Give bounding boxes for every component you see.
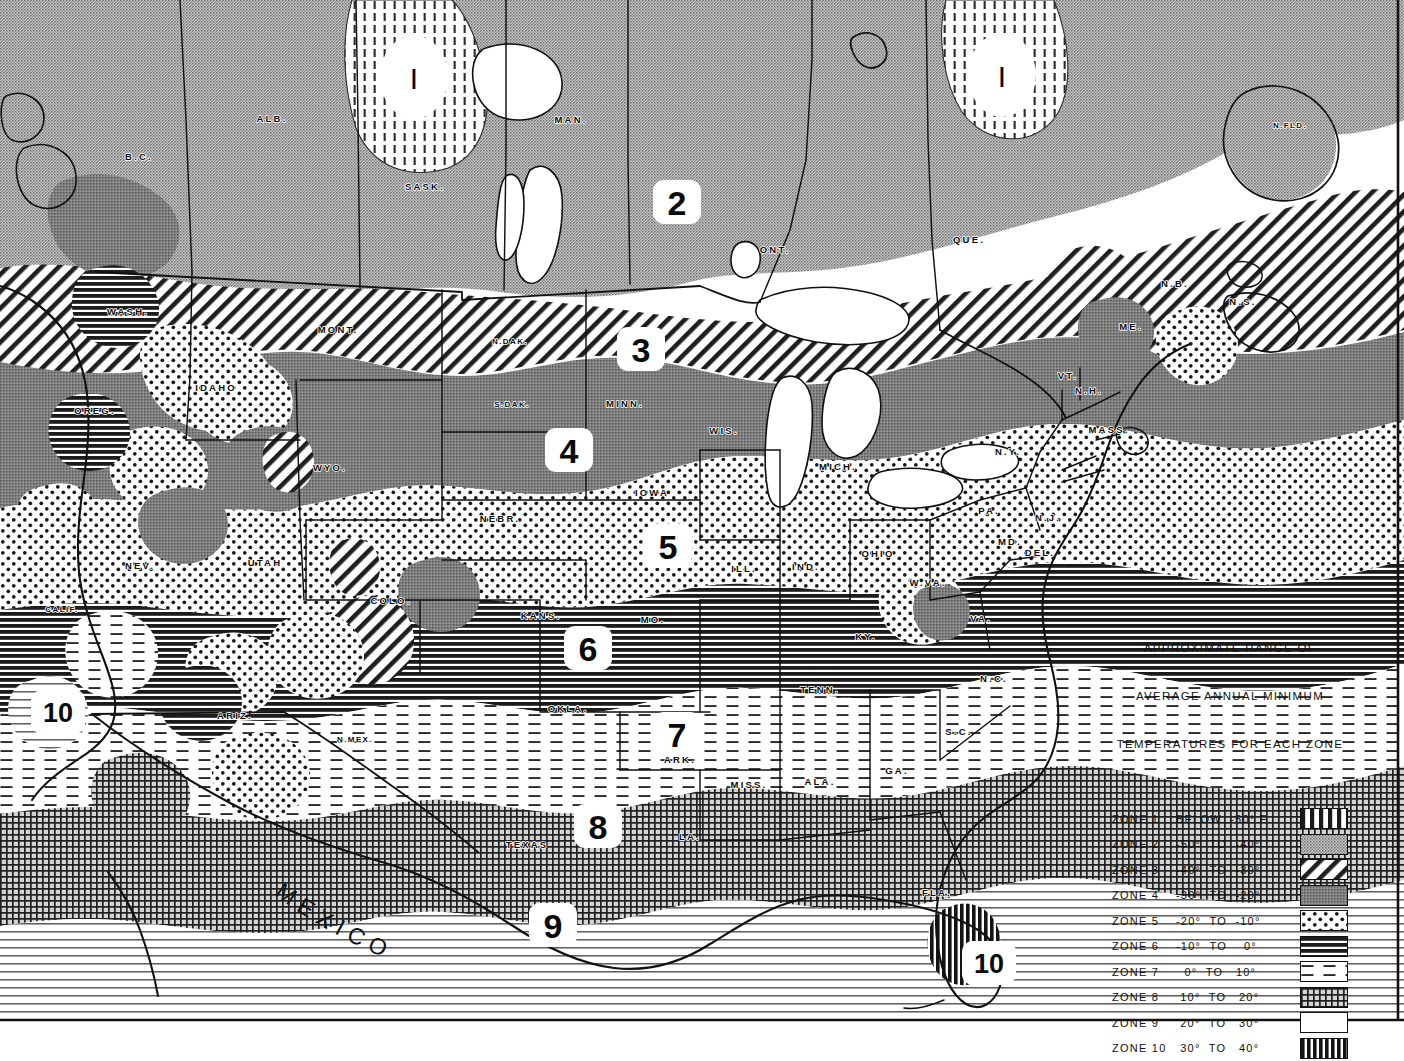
legend-temperature-range: 30° TO 40° [1170,1042,1296,1054]
legend-swatch-zone7 [1300,961,1348,982]
region-label-idaho: IDAHO [195,382,237,393]
region-label-okla: OKLA. [548,703,589,714]
region-label-man: MAN. [554,114,587,125]
region-label-sask: SASK. [405,181,445,192]
zone-marker-label: 4 [560,432,579,470]
legend-zone-label: ZONE 7 [1112,966,1170,978]
legend-zone-label: ZONE 3 [1112,864,1170,876]
legend-row-zone5: ZONE 5-20° TO -10° [1112,908,1348,934]
region-label-ala: ALA. [805,776,836,787]
legend-panel: APPROXIMATE RANGE OF AVERAGE ANNUAL MINI… [1112,608,1348,1061]
zone-marker-10: 10 [962,941,1016,985]
zone-marker-9: 9 [529,903,577,947]
legend-swatch-zone5 [1300,910,1348,931]
zone-marker-label: I [998,60,1006,93]
region-label-kans: KANS. [521,610,562,621]
zone-marker-1: I [380,35,448,119]
legend-row-zone1: ZONE 1BELOW -50° F [1112,806,1348,832]
legend-rows: ZONE 1BELOW -50° FZONE 2-50° TO -40°ZONE… [1112,806,1348,1061]
zone-marker-label: 7 [668,716,687,754]
zone-marker-label: 3 [632,331,651,369]
lake-of-woods [731,242,760,278]
legend-row-zone7: ZONE 7 0° TO 10° [1112,959,1348,985]
legend-swatch-zone1 [1300,808,1348,829]
legend-temperature-range: 20° TO 30° [1170,1017,1296,1029]
legend-temperature-range: -10° TO 0° [1170,940,1296,952]
legend-row-zone6: ZONE 6-10° TO 0° [1112,934,1348,960]
legend-title-line-3: TEMPERATURES FOR EACH ZONE [1112,736,1348,752]
region-label-ill: ILL. [731,563,757,574]
region-label-que: QUE. [953,234,985,245]
legend-swatch-zone8 [1300,987,1348,1008]
region-label-ga: GA. [885,765,909,776]
region-label-tenn: TENN. [800,684,840,695]
legend-title-line-1: APPROXIMATE RANGE OF [1112,640,1348,656]
legend-swatch-zone2 [1300,834,1348,855]
region-label-colo: COLO. [370,595,411,606]
region-label-nj: N.J. [1035,512,1061,523]
zone-marker-label: 6 [579,630,598,668]
legend-zone-label: ZONE 2 [1112,838,1170,850]
region-label-wyo: WYO. [313,462,347,473]
zone-marker-7: 7 [653,712,701,756]
legend-swatch-zone3 [1300,859,1348,880]
region-label-alb: ALB. [257,113,288,124]
region-label-ns: N.S. [1229,296,1256,307]
region-label-pa: PA. [978,505,1000,516]
legend-temperature-range: -50° TO -40° [1170,838,1296,850]
region-label-wva: W.VA. [909,577,946,588]
region-label-iowa: IOWA [635,487,669,498]
region-label-nh: N.H. [1075,385,1103,396]
legend-row-zone3: ZONE 3-40° TO -30° [1112,857,1348,883]
region-label-wis: WIS. [709,425,738,436]
zone-marker-6: 6 [564,626,612,670]
region-label-md: MD. [998,536,1022,547]
legend-temperature-range: -20° TO -10° [1170,915,1296,927]
region-label-ny: N.Y. [995,446,1021,457]
legend-row-zone8: ZONE 8 10° TO 20° [1112,985,1348,1011]
region-label-ont: ONT. [760,244,790,255]
legend-row-zone2: ZONE 2-50° TO -40° [1112,832,1348,858]
legend-title-line-2: AVERAGE ANNUAL MINIMUM [1112,688,1348,704]
zone-marker-label: 2 [668,184,687,222]
region-label-va: VA. [970,613,992,624]
region-label-mo: MO. [641,614,666,625]
legend-row-zone9: ZONE 9 20° TO 30° [1112,1010,1348,1036]
region-label-vt: VT. [1058,370,1078,381]
legend-row-zone4: ZONE 4-30° TO -20° [1112,883,1348,909]
region-label-nb: N.B. [1161,278,1189,289]
region-label-miss: MISS. [731,779,768,790]
region-label-me: ME. [1119,321,1143,332]
region-label-ndak: N.DAK. [492,337,528,346]
legend-zone-label: ZONE 6 [1112,940,1170,952]
legend-swatch-zone4 [1300,885,1348,906]
legend-temperature-range: -30° TO -20° [1170,889,1296,901]
region-label-minn: MINN. [606,398,644,409]
legend-zone-label: ZONE 9 [1112,1017,1170,1029]
region-label-fla: FLA. [922,887,952,898]
zone-marker-4: 4 [545,428,593,472]
zone-marker-10w: 10 [31,690,85,734]
region-label-ind: IND. [792,561,820,572]
legend-zone-label: ZONE 5 [1112,915,1170,927]
region-label-del: DEL. [1025,547,1055,558]
region-label-sdak: S.DAK. [494,400,530,409]
zone-marker-label: 9 [544,907,563,945]
region-label-ky: KY. [855,631,876,642]
region-label-mont: MONT. [318,324,359,335]
region-label-ohio: OHIO [861,548,894,559]
zone-marker-label: 5 [659,528,678,566]
region-label-utah: UTAH [248,557,282,568]
legend-zone-label: ZONE 8 [1112,991,1170,1003]
region-label-bc: B.C. [125,151,153,162]
zone-marker-label: 10 [43,698,73,728]
region-label-oreg: OREG. [74,405,116,416]
legend-zone-label: ZONE 4 [1112,889,1170,901]
legend-row-zone10: ZONE 10 30° TO 40° [1112,1036,1348,1061]
legend-swatch-zone6 [1300,936,1348,957]
legend-zone-label: ZONE 1 [1112,813,1170,825]
zone-marker-3: 3 [617,327,665,371]
legend-temperature-range: 10° TO 20° [1170,991,1296,1003]
region-label-texas: TEXAS [506,839,549,850]
